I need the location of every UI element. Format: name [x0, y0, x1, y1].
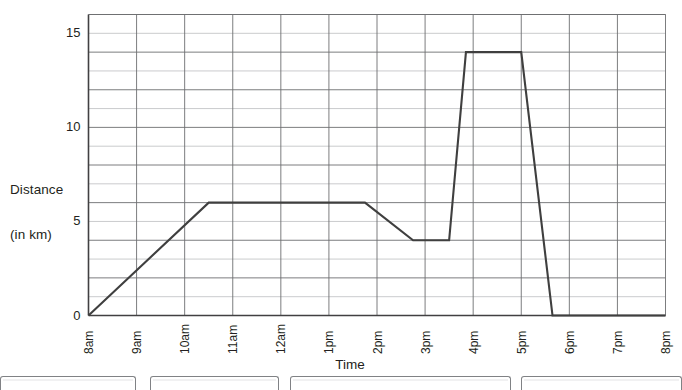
x-tick-label-8am: 8am [83, 330, 95, 353]
x-tick-label-11am: 11am [227, 324, 239, 353]
x-tick-label-5pm: 5pm [516, 330, 528, 353]
y-tick-label-0: 0 [59, 309, 81, 322]
answer-box-3[interactable] [290, 376, 511, 390]
x-tick-label-10am: 10am [179, 323, 191, 353]
y-tick-label-15: 15 [59, 26, 81, 39]
x-tick-label-1pm: 1pm [323, 330, 335, 353]
x-tick-label-7pm: 7pm [612, 330, 624, 353]
answer-box-4[interactable] [521, 376, 682, 390]
answer-box-1[interactable] [0, 376, 136, 390]
x-tick-label-12am: 12am [275, 323, 287, 353]
x-tick-label-6pm: 6pm [564, 330, 576, 353]
answer-box-2[interactable] [150, 376, 279, 390]
x-tick-label-9am: 9am [131, 330, 143, 353]
x-tick-label-4pm: 4pm [468, 330, 480, 353]
x-tick-label-8pm: 8pm [660, 330, 672, 353]
y-tick-label-10: 10 [59, 120, 81, 133]
x-axis-title-text: Time [335, 357, 365, 372]
y-tick-label-5: 5 [59, 214, 81, 227]
x-tick-label-3pm: 3pm [420, 330, 432, 353]
x-tick-label-2pm: 2pm [372, 330, 384, 353]
x-axis-title: Time [0, 357, 682, 372]
